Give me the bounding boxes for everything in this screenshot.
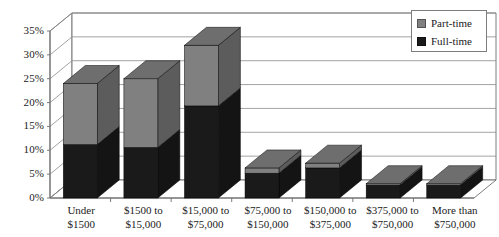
- legend-label-full-time: Full-time: [431, 36, 472, 47]
- legend-swatch-full-time-icon: [417, 37, 426, 46]
- x-axis-category-labels: Under$1500$1500 to$15,000$15,000 to$75,0…: [50, 201, 486, 237]
- y-axis-tick-25: 25%: [2, 73, 44, 84]
- legend-item-part-time: Part-time: [417, 14, 482, 32]
- category-label-line: $375,000 to: [361, 204, 423, 218]
- category-label-line: $750,000: [361, 218, 423, 232]
- x-axis-category-4: $75,000 to$150,000: [237, 201, 299, 237]
- x-axis-category-7: More than$750,000: [424, 201, 486, 237]
- legend-swatch-part-time-icon: [417, 19, 426, 28]
- y-axis-tick-20: 20%: [2, 97, 44, 108]
- bar-4: [245, 150, 301, 198]
- category-label-line: $150,000 to: [299, 204, 361, 218]
- bar-6: [366, 166, 422, 198]
- y-axis-tick-labels: 0%5%10%15%20%25%30%35%: [0, 0, 44, 237]
- y-axis-tick-35: 35%: [2, 25, 44, 36]
- bars-group: [63, 27, 482, 198]
- category-label-line: $1500 to: [112, 204, 174, 218]
- category-label-line: $1500: [50, 218, 112, 232]
- category-label-line: More than: [424, 204, 486, 218]
- legend-item-full-time: Full-time: [417, 32, 482, 50]
- x-axis-category-5: $150,000 to$375,000: [299, 201, 361, 237]
- y-axis-tick-15: 15%: [2, 120, 44, 131]
- category-label-line: $750,000: [424, 218, 486, 232]
- y-axis-tick-5: 5%: [2, 168, 44, 179]
- chart-container: 0%5%10%15%20%25%30%35% Under$1500$1500 t…: [0, 0, 499, 237]
- category-label-line: $15,000 to: [175, 204, 237, 218]
- x-axis-category-1: Under$1500: [50, 201, 112, 237]
- y-axis-tick-0: 0%: [2, 192, 44, 203]
- category-label-line: $15,000: [112, 218, 174, 232]
- bar-7: [427, 166, 483, 198]
- x-axis-category-3: $15,000 to$75,000: [175, 201, 237, 237]
- category-label-line: $75,000: [175, 218, 237, 232]
- x-axis-category-6: $375,000 to$750,000: [361, 201, 423, 237]
- x-axis-category-2: $1500 to$15,000: [112, 201, 174, 237]
- category-label-line: $75,000 to: [237, 204, 299, 218]
- category-label-line: $375,000: [299, 218, 361, 232]
- bar-1: [63, 65, 119, 198]
- bar-5: [306, 145, 362, 198]
- category-label-line: $150,000: [237, 218, 299, 232]
- y-axis-tick-10: 10%: [2, 144, 44, 155]
- bar-3: [184, 27, 240, 198]
- floor: [50, 180, 496, 198]
- y-axis-tick-30: 30%: [2, 49, 44, 60]
- left-wall: [50, 13, 72, 198]
- chart-legend: Part-time Full-time: [411, 10, 487, 52]
- legend-label-part-time: Part-time: [431, 18, 472, 29]
- category-label-line: Under: [50, 204, 112, 218]
- bar-2: [124, 61, 180, 198]
